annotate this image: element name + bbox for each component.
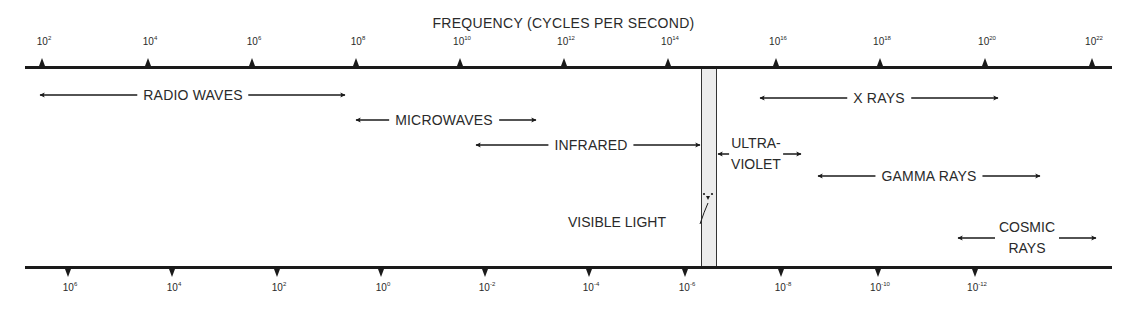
ultraviolet-label-line1: ULTRA- xyxy=(729,133,783,154)
cosmic-rays-label-line2: RAYS xyxy=(995,238,1059,259)
ultraviolet-label-line2: VIOLET xyxy=(729,154,783,175)
visible-light-dots xyxy=(703,193,713,200)
ultraviolet-label: ULTRA- VIOLET xyxy=(729,133,783,175)
gamma-rays-label: GAMMA RAYS xyxy=(875,168,982,184)
infrared-label: INFRARED xyxy=(548,137,633,153)
range-arrows xyxy=(0,0,1127,329)
cosmic-rays-label: COSMIC RAYS xyxy=(995,217,1059,259)
visible-light-label: VISIBLE LIGHT xyxy=(568,214,666,230)
radio-waves-label: RADIO WAVES xyxy=(137,87,248,103)
microwaves-label: MICROWAVES xyxy=(389,112,499,128)
visible-light-leader xyxy=(700,203,708,224)
x-rays-label: X RAYS xyxy=(847,90,911,106)
cosmic-rays-label-line1: COSMIC xyxy=(995,217,1059,238)
